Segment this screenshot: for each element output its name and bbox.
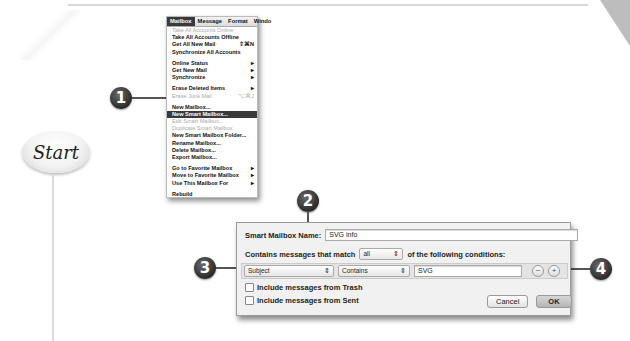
menu-item: Erase Junk Mail⌥⌘J (167, 93, 257, 100)
step-1-connector (132, 97, 168, 99)
condition-value-input[interactable]: SVG (414, 265, 522, 277)
smart-mailbox-dialog: Smart Mailbox Name: SVG info Contains me… (236, 222, 571, 316)
menu-item-label: Get New Mail (172, 67, 207, 74)
menu-item-label: Erase Junk Mail (172, 93, 212, 100)
menubar-item[interactable]: Format (225, 17, 251, 26)
condition-operator-select[interactable]: Contains⇕ (338, 265, 410, 277)
menu-item-label: Use This Mailbox For (172, 180, 228, 187)
menu-item-shortcut: ▸ (251, 74, 254, 81)
match-select[interactable]: all⇕ (359, 248, 403, 260)
menu-item[interactable]: Go to Favorite Mailbox▸ (167, 165, 257, 172)
menu-item[interactable]: Take All Accounts Offline (167, 34, 257, 41)
menubar-item[interactable]: Mailbox (167, 17, 195, 26)
menubar-item[interactable]: Windo (251, 17, 275, 26)
condition-operator-value: Contains (342, 266, 368, 276)
cancel-button[interactable]: Cancel (487, 295, 528, 308)
watermark (20, 10, 80, 60)
menu-item-label: Online Status (172, 60, 208, 67)
menu-item-label: Rename Mailbox... (172, 140, 221, 147)
menu-item: Take All Accounts Online (167, 27, 257, 34)
menu-item-shortcut: ⌥⌘J (238, 93, 254, 100)
menu-item-label: New Smart Mailbox Folder... (172, 132, 246, 139)
menu-item-shortcut: ▸ (251, 172, 254, 179)
menu-item[interactable]: Export Mailbox... (167, 154, 257, 161)
menu-item-shortcut: ▸ (251, 67, 254, 74)
menubar-item[interactable]: Message (195, 17, 226, 26)
menu-item-label: Synchronize (172, 74, 205, 81)
menu-item-label: Rebuild (172, 191, 193, 198)
menu-item[interactable]: Rebuild (167, 191, 257, 198)
start-badge: Start (22, 131, 90, 173)
menu-item[interactable]: New Smart Mailbox Folder... (167, 132, 257, 139)
stepper-icon: ⇕ (324, 266, 330, 276)
include-sent-label: Include messages from Sent (257, 296, 359, 305)
menu-bar: MailboxMessageFormatWindo (167, 17, 257, 27)
match-prefix-label: Contains messages that match (245, 250, 355, 259)
match-suffix-label: of the following conditions: (407, 250, 505, 259)
include-trash-label: Include messages from Trash (257, 283, 362, 292)
menu-item[interactable]: Get All New Mail⇧⌘N (167, 41, 257, 48)
mailbox-name-input[interactable]: SVG info (325, 229, 578, 241)
include-trash-checkbox[interactable] (245, 283, 254, 292)
condition-field-select[interactable]: Subject⇕ (244, 265, 334, 277)
menu-item-shortcut: ▸ (251, 85, 254, 92)
start-flow-line (52, 175, 54, 341)
menu-item-label: Export Mailbox... (172, 154, 217, 161)
page-top-rule (68, 4, 588, 6)
menu-item[interactable]: Synchronize▸ (167, 74, 257, 81)
menu-item[interactable]: Delete Mailbox... (167, 147, 257, 154)
menu-item-shortcut: ⇧⌘N (239, 41, 254, 48)
step-2-marker: 2 (297, 190, 319, 212)
condition-row: Subject⇕ Contains⇕ SVG − + (241, 263, 568, 279)
condition-field-value: Subject (248, 266, 270, 276)
menu-item[interactable]: Online Status▸ (167, 60, 257, 67)
include-sent-checkbox[interactable] (245, 296, 254, 305)
menu-item[interactable]: Synchronize All Accounts (167, 49, 257, 56)
menu-item: Duplicate Smart Mailbox (167, 125, 257, 132)
menu-item-label: Erase Deleted Items (172, 85, 225, 92)
menu-item[interactable]: Use This Mailbox For▸ (167, 180, 257, 187)
menu-item-label: Edit Smart Mailbox... (172, 118, 224, 125)
start-label: Start (33, 142, 79, 163)
menu-item[interactable]: New Mailbox... (167, 104, 257, 111)
menu-item-label: Take All Accounts Online (172, 27, 233, 34)
page-corner-decoration (600, 0, 630, 46)
mailbox-name-label: Smart Mailbox Name: (245, 231, 321, 240)
menu-item-label: Delete Mailbox... (172, 147, 216, 154)
step-1-marker: 1 (110, 87, 132, 109)
menu-item: Edit Smart Mailbox... (167, 118, 257, 125)
menu-item[interactable]: Move to Favorite Mailbox▸ (167, 172, 257, 179)
menu-item-label: Move to Favorite Mailbox (172, 172, 239, 179)
menu-item-label: Go to Favorite Mailbox (172, 165, 232, 172)
menu-item-label: Synchronize All Accounts (172, 49, 241, 56)
match-value: all (363, 249, 370, 259)
menu-item-label: Get All New Mail (172, 41, 215, 48)
step-4-marker: 4 (590, 258, 612, 280)
stepper-icon: ⇕ (393, 249, 399, 259)
menu-item-shortcut: ▸ (251, 60, 254, 67)
menu-item-label: Take All Accounts Offline (172, 34, 239, 41)
menu-item[interactable]: Erase Deleted Items▸ (167, 85, 257, 92)
mailbox-menu: MailboxMessageFormatWindo Take All Accou… (166, 16, 258, 198)
menu-item[interactable]: Rename Mailbox... (167, 140, 257, 147)
menu-item-shortcut: ▸ (251, 180, 254, 187)
menu-item-label: New Smart Mailbox... (172, 111, 228, 118)
stepper-icon: ⇕ (400, 266, 406, 276)
menu-item[interactable]: New Smart Mailbox... (167, 111, 257, 118)
step-3-marker: 3 (194, 257, 216, 279)
menu-item[interactable]: Get New Mail▸ (167, 67, 257, 74)
menu-item-label: New Mailbox... (172, 104, 211, 111)
menu-item-shortcut: ▸ (251, 165, 254, 172)
menu-items: Take All Accounts OnlineTake All Account… (167, 27, 257, 198)
ok-button[interactable]: OK (536, 295, 571, 308)
menu-item-label: Duplicate Smart Mailbox (172, 125, 233, 132)
remove-condition-button[interactable]: − (532, 265, 544, 277)
add-condition-button[interactable]: + (548, 265, 560, 277)
